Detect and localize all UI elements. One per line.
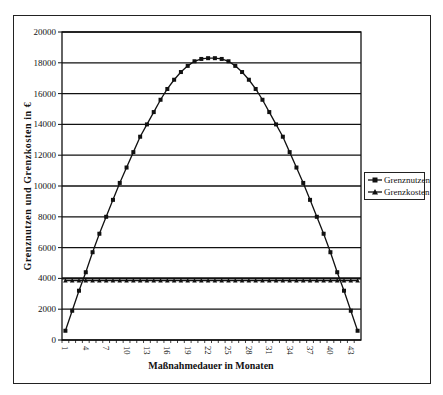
data-point — [125, 166, 129, 170]
y-tick-label: 16000 — [34, 89, 57, 99]
x-tick-label: 28 — [244, 346, 254, 355]
data-point — [254, 87, 258, 91]
data-point — [104, 215, 108, 219]
data-point — [328, 250, 332, 254]
data-point — [165, 87, 169, 91]
y-tick-label: 14000 — [34, 119, 57, 129]
square-marker-icon — [367, 174, 383, 186]
data-point — [193, 59, 197, 63]
x-tick-label: 19 — [183, 346, 193, 355]
x-tick-label: 43 — [346, 346, 356, 355]
data-point — [233, 64, 237, 68]
data-point — [274, 122, 278, 126]
data-point — [267, 110, 271, 114]
data-point — [260, 98, 264, 102]
data-point — [288, 150, 292, 154]
y-tick-label: 6000 — [38, 243, 57, 253]
data-point — [111, 198, 115, 202]
series-line-grenznutzen — [65, 58, 357, 331]
triangle-marker-icon — [367, 186, 383, 198]
x-axis-label: Maßnahmedauer in Monaten — [148, 360, 273, 371]
data-point — [342, 289, 346, 293]
data-point — [281, 135, 285, 139]
x-tick-label: 4 — [81, 346, 91, 351]
data-point — [294, 166, 298, 170]
x-tick-label: 16 — [162, 346, 172, 355]
data-point — [138, 135, 142, 139]
data-point — [206, 56, 210, 60]
data-point — [77, 289, 81, 293]
legend: Grenznutzen Grenzkosten — [364, 172, 425, 200]
data-point — [118, 181, 122, 185]
y-tick-label: 4000 — [38, 273, 57, 283]
data-point — [145, 122, 149, 126]
x-tick-label: 40 — [325, 346, 335, 355]
x-tick-label: 31 — [264, 346, 274, 355]
data-point — [322, 232, 326, 236]
data-point — [220, 57, 224, 61]
x-tick-label: 34 — [285, 346, 295, 355]
x-tick-label: 1 — [60, 346, 70, 350]
y-tick-label: 20000 — [34, 27, 57, 37]
x-tick-label: 13 — [142, 346, 152, 355]
data-point — [186, 64, 190, 68]
data-point — [301, 181, 305, 185]
data-point — [213, 56, 217, 60]
data-point — [199, 57, 203, 61]
data-point — [240, 70, 244, 74]
x-tick-label: 7 — [101, 346, 111, 350]
y-tick-label: 2000 — [38, 304, 57, 314]
data-point — [70, 309, 74, 313]
data-point — [226, 59, 230, 63]
data-point — [63, 329, 67, 333]
y-tick-label: 18000 — [34, 58, 57, 68]
data-point — [172, 78, 176, 82]
data-point — [84, 270, 88, 274]
y-tick-label: 10000 — [34, 181, 57, 191]
data-point — [91, 250, 95, 254]
data-point — [315, 215, 319, 219]
data-point — [308, 198, 312, 202]
y-tick-label: 0 — [52, 335, 57, 345]
data-point — [152, 110, 156, 114]
y-tick-label: 12000 — [34, 150, 57, 160]
data-point — [335, 270, 339, 274]
x-tick-label: 10 — [122, 346, 132, 355]
legend-label: Grenzkosten — [384, 186, 429, 198]
data-point — [159, 98, 163, 102]
y-axis-label: Grenznutzen und Grenzkosten in € — [22, 102, 33, 271]
data-point — [179, 70, 183, 74]
data-point — [356, 329, 360, 333]
y-tick-label: 8000 — [38, 212, 57, 222]
data-point — [131, 150, 135, 154]
x-tick-label: 37 — [305, 346, 315, 355]
data-point — [349, 309, 353, 313]
x-tick-label: 22 — [203, 346, 213, 355]
legend-label: Grenznutzen — [384, 174, 430, 186]
data-point — [97, 232, 101, 236]
data-point — [247, 78, 251, 82]
x-tick-label: 25 — [223, 346, 233, 355]
